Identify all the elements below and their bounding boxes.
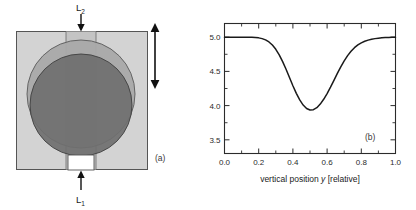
- label-l2: L2: [76, 2, 85, 15]
- l2-arrow-icon: [77, 14, 84, 32]
- y-tick-label: 3.5: [209, 136, 221, 145]
- schematic-diagram: L2 L1 (a): [0, 0, 208, 210]
- x-tick-label: 0.2: [253, 158, 265, 167]
- panel-a-tag: (a): [155, 153, 166, 163]
- x-tick-label: 0.6: [322, 158, 334, 167]
- y-axis-tick-labels: 3.54.04.55.0: [209, 33, 221, 145]
- x-tick-label: 0.4: [287, 158, 299, 167]
- x-tick-label: 1.0: [390, 158, 402, 167]
- y-tick-label: 4.0: [209, 102, 221, 111]
- panel-a-schematic: L2 L1 (a): [0, 0, 208, 210]
- lock-in-signal-plot: 0.00.20.40.60.81.0 3.54.04.55.0 (b) vert…: [208, 0, 416, 210]
- vertical-scan-arrow-icon: [151, 23, 160, 89]
- panel-b-tag: (b): [365, 132, 376, 142]
- y-tick-label: 5.0: [209, 33, 221, 42]
- panel-b-chart: 0.00.20.40.60.81.0 3.54.04.55.0 (b) vert…: [208, 0, 416, 210]
- label-l1: L1: [76, 194, 85, 207]
- l1-arrow-icon: [77, 171, 84, 191]
- lower-disc: [30, 54, 132, 156]
- y-tick-label: 4.5: [209, 67, 221, 76]
- bottom-notch: [68, 155, 94, 170]
- x-tick-label: 0.0: [219, 158, 231, 167]
- x-tick-label: 0.8: [356, 158, 368, 167]
- x-axis-tick-labels: 0.00.20.40.60.81.0: [219, 158, 402, 167]
- figure-root: L2 L1 (a): [0, 0, 416, 210]
- x-axis-title: vertical position y [relative]: [260, 174, 360, 184]
